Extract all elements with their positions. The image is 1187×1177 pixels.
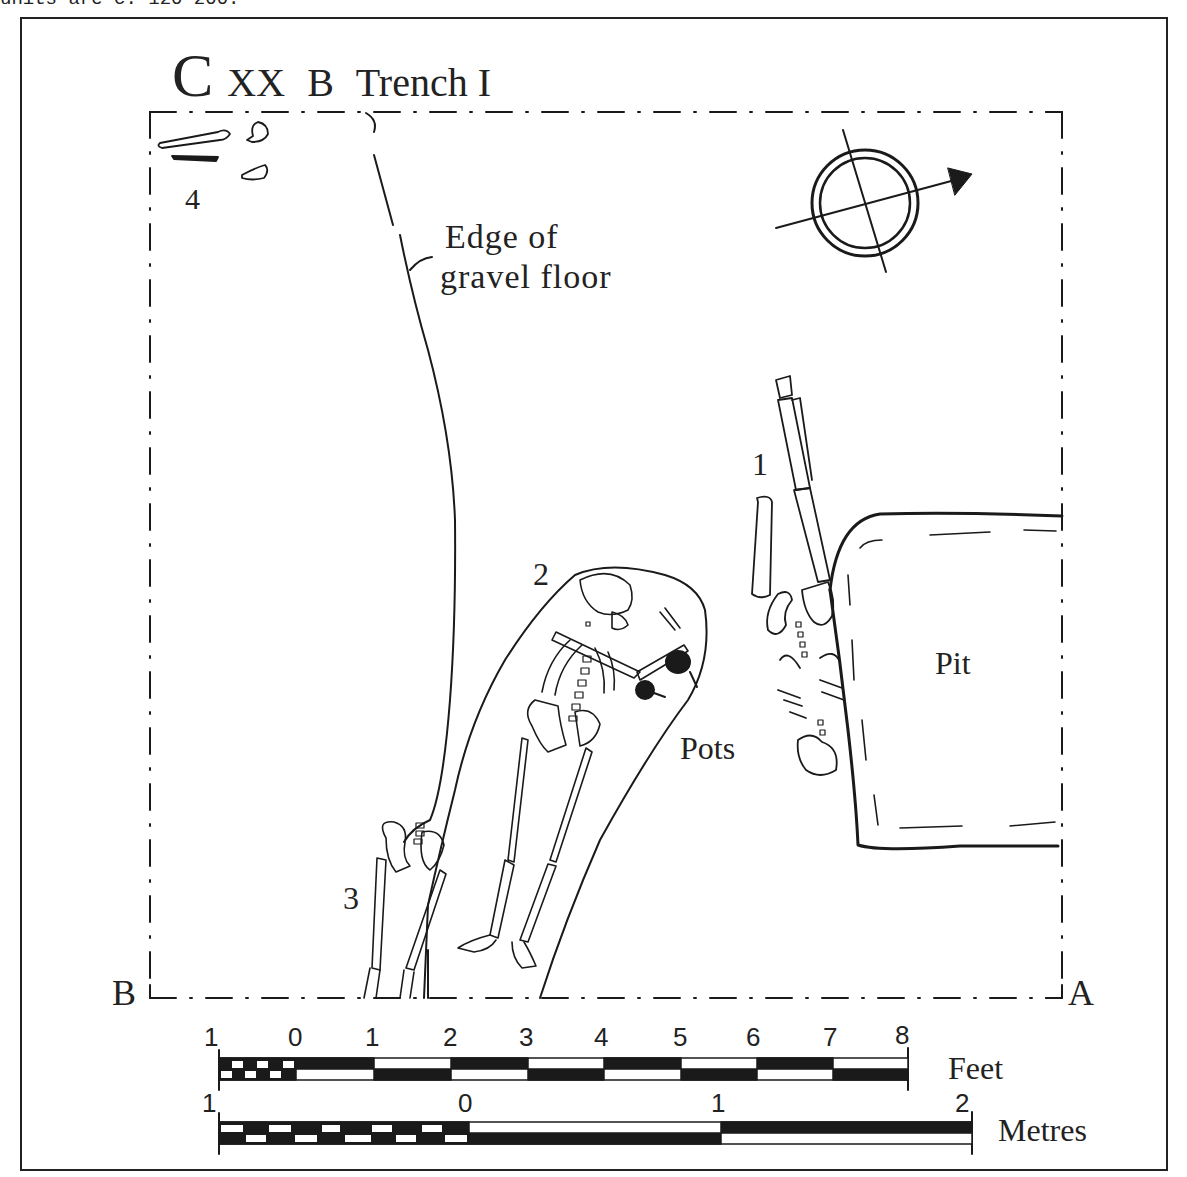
feet-scale-bar [219,1048,908,1090]
feet-tick: 4 [594,1022,608,1053]
feet-tick: 8 [895,1020,909,1051]
trench-plan-drawing [0,0,1187,1177]
pit-label: Pit [935,645,971,682]
feet-unit-label: Feet [948,1050,1003,1087]
burial-1-label: 1 [752,446,768,483]
burial-2-skeleton [458,574,688,968]
burial-4-bones [158,122,268,180]
burial-4-label: 4 [185,182,200,216]
feet-tick: 7 [823,1022,837,1053]
metres-tick: 2 [955,1088,969,1119]
edge-label-line1: Edge of [445,218,559,256]
pots-label: Pots [680,730,735,767]
burial-3-skeleton [364,822,446,998]
feet-tick: 1 [365,1022,379,1053]
feet-tick: 0 [288,1022,302,1053]
feet-tick: 3 [519,1022,533,1053]
feet-tick: 1 [204,1022,218,1053]
feet-tick: 5 [673,1022,687,1053]
metres-unit-label: Metres [998,1112,1087,1149]
edge-label-line2: gravel floor [440,258,612,296]
gravel-floor-edge [366,113,455,842]
burial-3-label: 3 [343,880,359,917]
metres-tick: 1 [202,1088,216,1119]
north-arrow-icon [776,130,972,272]
burial-2-grave-cut [424,568,707,999]
feet-tick: 2 [443,1022,457,1053]
metres-tick: 1 [711,1088,725,1119]
corner-a-label: A [1068,972,1094,1014]
metres-scale-bar [219,1112,972,1154]
feet-tick: 6 [746,1022,760,1053]
pots [636,651,697,699]
metres-tick: 0 [458,1088,472,1119]
corner-b-label: B [112,972,136,1014]
burial-1-skeleton [752,376,844,775]
trench-boundary [150,112,1062,998]
burial-2-label: 2 [533,556,549,593]
